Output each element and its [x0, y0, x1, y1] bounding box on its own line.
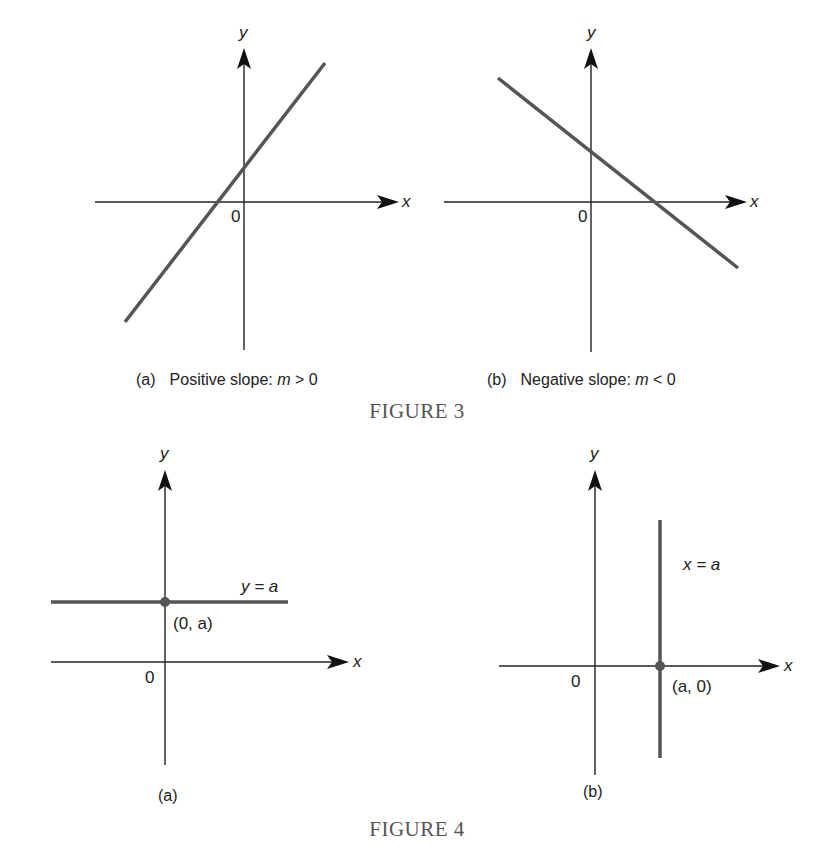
y-axis-label: y — [159, 444, 170, 463]
positive-slope-line — [125, 63, 325, 322]
point-label: (a, 0) — [672, 677, 712, 696]
panel-label: (a) — [158, 787, 178, 804]
line-equation-label: y = a — [240, 577, 278, 596]
fig3-panel-a: y x 0 (a)Positive slope: m > 0 — [95, 23, 411, 388]
point-label: (0, a) — [173, 614, 213, 633]
fig4-panel-a: y x 0 y = a (0, a) (a) — [51, 444, 362, 804]
point-marker — [655, 661, 665, 671]
origin-label: 0 — [231, 207, 240, 226]
y-axis-label: y — [238, 23, 249, 42]
origin-label: 0 — [578, 207, 587, 226]
x-axis-label: x — [783, 656, 793, 675]
line-equation-label: x = a — [682, 555, 720, 574]
panel-label: (b) — [583, 783, 603, 800]
x-axis-label: x — [401, 192, 411, 211]
figure-4-title: FIGURE 4 — [369, 817, 465, 841]
negative-slope-line — [498, 78, 738, 268]
fig3-panel-b: y x 0 (b)Negative slope: m < 0 — [444, 23, 759, 388]
origin-label: 0 — [571, 672, 580, 691]
y-axis-label: y — [589, 444, 600, 463]
panel-caption: (b)Negative slope: m < 0 — [487, 371, 676, 388]
x-axis-label: x — [749, 192, 759, 211]
fig4-panel-b: y x 0 x = a (a, 0) (b) — [499, 444, 793, 800]
point-marker — [160, 597, 170, 607]
figure-3-title: FIGURE 3 — [369, 399, 465, 423]
x-axis-label: x — [352, 652, 362, 671]
y-axis-label: y — [586, 23, 597, 42]
panel-caption: (a)Positive slope: m > 0 — [136, 371, 318, 388]
figures-canvas: y x 0 (a)Positive slope: m > 0 y x 0 (b)… — [0, 0, 835, 863]
origin-label: 0 — [145, 668, 154, 687]
